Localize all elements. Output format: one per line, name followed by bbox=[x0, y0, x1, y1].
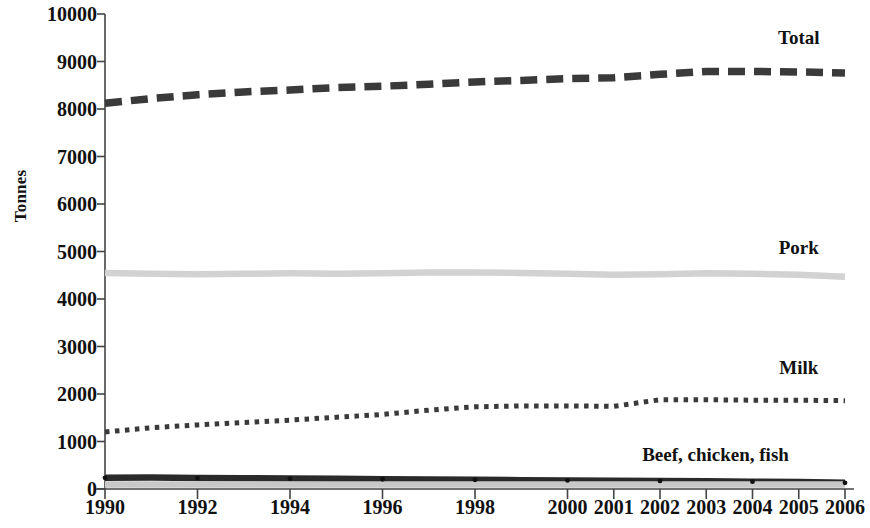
series-line-total bbox=[105, 71, 845, 103]
series-marker bbox=[843, 480, 848, 485]
series-marker bbox=[658, 479, 663, 484]
series-label-beef-chicken-fish: Beef, chicken, fish bbox=[642, 445, 789, 464]
series-marker bbox=[750, 479, 755, 484]
series-label-milk: Milk bbox=[779, 358, 818, 377]
series-marker bbox=[103, 475, 108, 480]
series-line-pork bbox=[105, 272, 845, 276]
series-marker bbox=[195, 476, 200, 481]
series-label-pork: Pork bbox=[779, 238, 819, 257]
series-label-total: Total bbox=[778, 28, 820, 47]
series-marker bbox=[565, 478, 570, 483]
series-line-milk bbox=[105, 400, 845, 432]
series-marker bbox=[473, 477, 478, 482]
series-marker bbox=[380, 477, 385, 482]
series-marker bbox=[288, 476, 293, 481]
